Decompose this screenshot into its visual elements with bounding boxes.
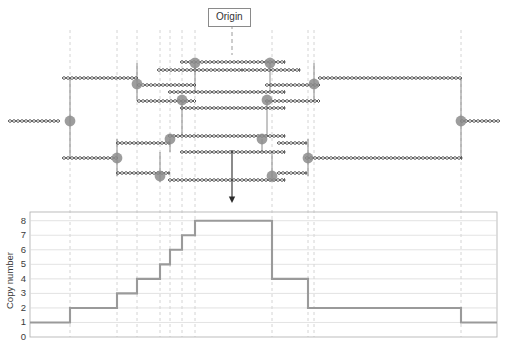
- dna-strands: [8, 61, 500, 182]
- y-tick-label-0: 0: [12, 332, 26, 341]
- y-tick-label-2: 2: [12, 303, 26, 312]
- bubble-top-left-a: [157, 69, 243, 72]
- fork-l3-top-right: [262, 95, 273, 106]
- y-tick-label-4: 4: [12, 274, 26, 283]
- fork-l4-bottom-left: [165, 134, 176, 145]
- level1-bottom-left: [62, 157, 118, 160]
- origin-pointer: [229, 25, 235, 203]
- level2-bottom-right: [277, 172, 307, 175]
- level3-bottom-right: [277, 142, 307, 145]
- inner-top-b: [168, 91, 285, 94]
- replication-fork-markers: [65, 58, 467, 182]
- y-tick-label-5: 5: [12, 259, 26, 268]
- fork-l4-bottom-right: [257, 134, 268, 145]
- fork-outer-left: [65, 116, 76, 127]
- fork-connector-lines: [70, 62, 461, 182]
- fork-l3-top-left: [177, 95, 188, 106]
- origin-label-text: Origin: [216, 11, 243, 22]
- fork-outer-right: [456, 116, 467, 127]
- fork-l1-top-left: [132, 79, 143, 90]
- level1-top-right: [318, 77, 462, 80]
- inner-bot-b: [168, 179, 285, 182]
- chart-frame: [30, 212, 497, 337]
- origin-arrow-head: [229, 197, 235, 204]
- bubble-top-right-a: [243, 69, 300, 72]
- y-tick-label-8: 8: [12, 216, 26, 225]
- y-tick-label-7: 7: [12, 230, 26, 239]
- fork-l2-top-left: [190, 58, 201, 69]
- y-tick-label-1: 1: [12, 317, 26, 326]
- alignment-guide-lines: [70, 30, 461, 337]
- level2-top-left: [137, 84, 196, 87]
- copy-number-step-line: [30, 221, 497, 323]
- origin-label-box: Origin: [208, 8, 251, 27]
- inner-mid-a: [180, 107, 285, 110]
- fork-l1-bottom-right: [303, 153, 314, 164]
- fork-l5-bottom-right: [267, 171, 278, 182]
- level1-top-left: [62, 77, 138, 80]
- y-tick-label-3: 3: [12, 288, 26, 297]
- level1-bottom-right: [305, 157, 462, 160]
- inner-mid-b: [168, 135, 285, 138]
- fork-l1-top-right: [309, 79, 320, 90]
- level3-bottom-left: [116, 142, 170, 145]
- y-tick-label-6: 6: [12, 245, 26, 254]
- replication-figure: [0, 0, 507, 348]
- fork-l2-top-right: [265, 58, 276, 69]
- copy-number-chart: [30, 212, 497, 337]
- fork-l5-bottom-left: [155, 171, 166, 182]
- level3-top-right: [265, 100, 320, 103]
- fork-l1-bottom-left: [112, 153, 123, 164]
- outer-left-tail: [8, 120, 60, 123]
